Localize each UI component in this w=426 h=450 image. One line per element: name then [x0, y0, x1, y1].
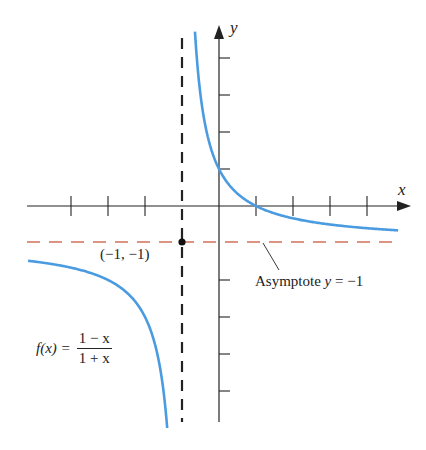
function-label: f(x) = 1 − x 1 + x [36, 330, 112, 367]
function-denominator: 1 + x [77, 349, 112, 367]
x-axis-arrow-icon [397, 201, 411, 211]
asymptote-label-eq: = −1 [331, 273, 363, 289]
asymptote-label-prefix: Asymptote [255, 273, 325, 289]
point-label: (−1, −1) [100, 246, 149, 263]
y-axis-arrow-icon [214, 25, 224, 39]
annotation-leader-line [263, 243, 279, 270]
function-fraction: 1 − x 1 + x [77, 330, 112, 367]
y-axis-label: y [230, 18, 238, 38]
function-graph [0, 0, 426, 450]
function-numerator: 1 − x [77, 330, 112, 349]
asymptote-label: Asymptote y = −1 [255, 273, 363, 290]
function-lhs: f(x) = [36, 340, 71, 357]
y-axis [214, 25, 224, 422]
curve-right-branch [195, 32, 398, 231]
x-axis-label: x [398, 180, 406, 200]
point-marker [178, 238, 185, 245]
